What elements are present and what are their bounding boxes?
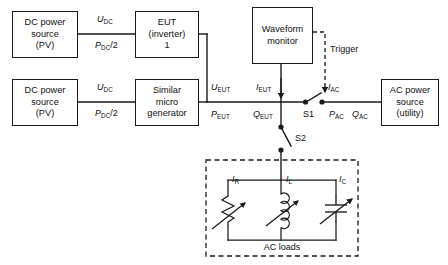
label-p-dc-bottom: PDC/2 [95, 108, 118, 119]
switch-s2-blade [281, 127, 291, 146]
waveform-monitor-line1: Waveform [262, 24, 304, 35]
label-i-c: IC [339, 174, 346, 185]
label-switch-s1[interactable]: S1 [303, 109, 314, 119]
micro-gen-line2: micro [156, 97, 178, 108]
label-p-ac: PAC [329, 109, 344, 120]
dc-source-1-line3: (PV) [36, 40, 54, 51]
s1-left-contact [303, 99, 308, 104]
eut-line2: (inverter) [149, 29, 186, 40]
label-q-ac: QAC [352, 109, 368, 120]
diagram-canvas: DC power source (PV) DC power source (PV… [0, 0, 448, 265]
label-ac-loads: AC loads [206, 242, 358, 252]
block-dc-power-source-2[interactable]: DC power source (PV) [12, 79, 78, 126]
label-trigger: Trigger [330, 44, 358, 54]
micro-gen-line3: generator [147, 108, 186, 119]
ac-source-line1: AC power [390, 85, 430, 96]
s2-top-contact [278, 124, 283, 129]
ac-source-line2: source [396, 97, 424, 108]
eut-line1: EUT [158, 17, 176, 28]
label-i-eut: IEUT [256, 82, 271, 93]
label-i-l: IL [286, 174, 292, 185]
dc-source-1-line2: source [31, 29, 59, 40]
block-waveform-monitor[interactable]: Waveform monitor [252, 7, 313, 64]
dc-source-2-line2: source [31, 97, 59, 108]
block-ac-power-source[interactable]: AC power source (utility) [381, 79, 439, 126]
waveform-monitor-line2: monitor [267, 36, 298, 47]
label-q-eut: QEUT [253, 109, 273, 120]
block-similar-micro-generator[interactable]: Similar micro generator [135, 79, 199, 126]
label-p-dc-top: PDC/2 [95, 40, 118, 51]
label-u-dc-top: UDC [97, 14, 113, 25]
ac-source-line3: (utility) [396, 108, 423, 119]
label-u-eut: UEUT [211, 82, 230, 93]
resistor-symbol [222, 196, 234, 226]
label-p-eut: PEUT [211, 109, 230, 120]
block-eut-inverter[interactable]: EUT (inverter) 1 [135, 11, 199, 58]
trigger-signal-line [313, 32, 325, 90]
block-dc-power-source-1[interactable]: DC power source (PV) [12, 11, 78, 58]
micro-gen-line1: Similar [153, 85, 181, 96]
dc-source-2-line3: (PV) [36, 108, 54, 119]
switch-s1-blade [306, 93, 321, 102]
label-i-r: IR [232, 174, 239, 185]
switch-contacts [278, 99, 324, 152]
label-u-dc-bottom: UDC [97, 82, 113, 93]
s2-bottom-contact [278, 147, 283, 152]
inductor-variable-arrow [266, 201, 298, 226]
dc-source-1-line1: DC power [25, 17, 66, 28]
label-i-ac: IAC [328, 82, 339, 93]
s1-right-contact [319, 99, 324, 104]
dc-source-2-line1: DC power [25, 85, 66, 96]
eut-line3: 1 [164, 40, 169, 51]
label-switch-s2[interactable]: S2 [295, 133, 306, 143]
